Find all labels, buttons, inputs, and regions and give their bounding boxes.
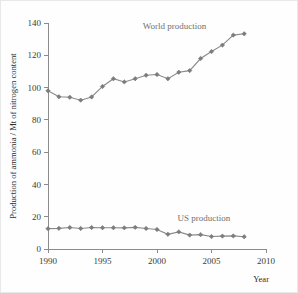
data-point	[133, 225, 137, 229]
y-tick-label-20: 20	[32, 212, 42, 222]
data-point	[122, 226, 126, 230]
data-point	[177, 230, 181, 234]
chart-figure: 02040608010012014019901995200020052010Pr…	[0, 0, 298, 293]
series-line	[48, 34, 244, 100]
data-point	[122, 80, 126, 84]
data-point	[231, 234, 235, 238]
y-tick-label-140: 140	[28, 18, 42, 28]
data-point	[188, 233, 192, 237]
y-tick-label-0: 0	[37, 244, 42, 254]
data-point	[220, 234, 224, 238]
data-point	[57, 95, 61, 99]
data-point	[89, 225, 93, 229]
data-point	[111, 225, 115, 229]
series-label-us-production: US production	[177, 213, 230, 223]
data-point	[79, 226, 83, 230]
y-tick-label-80: 80	[32, 115, 42, 125]
data-point	[100, 225, 104, 229]
data-point	[209, 234, 213, 238]
series-world-production: World production	[46, 21, 247, 102]
data-point	[79, 98, 83, 102]
x-tick-label-2000: 2000	[148, 256, 167, 266]
data-point	[198, 232, 202, 236]
data-point	[68, 225, 72, 229]
line-chart: 02040608010012014019901995200020052010Pr…	[1, 1, 298, 293]
data-point	[46, 89, 50, 93]
x-tick-label-1995: 1995	[94, 256, 113, 266]
y-tick-label-100: 100	[28, 83, 42, 93]
data-point	[133, 76, 137, 80]
y-tick-label-120: 120	[28, 50, 42, 60]
y-tick-label-60: 60	[32, 147, 42, 157]
data-point	[57, 226, 61, 230]
data-point	[144, 73, 148, 77]
data-point	[242, 32, 246, 36]
data-point	[155, 227, 159, 231]
data-point	[68, 95, 72, 99]
data-point	[155, 72, 159, 76]
x-tick-label-2005: 2005	[203, 256, 222, 266]
data-point	[144, 226, 148, 230]
x-axis-title: Year	[253, 274, 269, 284]
series-label-world-production: World production	[143, 21, 207, 31]
data-point	[166, 232, 170, 236]
data-point	[242, 235, 246, 239]
y-axis-title: Production of ammonia / Mt of nitrogen c…	[8, 53, 18, 219]
data-point	[46, 226, 50, 230]
y-tick-label-40: 40	[32, 180, 42, 190]
x-tick-label-1990: 1990	[39, 256, 58, 266]
x-tick-label-2010: 2010	[257, 256, 276, 266]
series-us-production: US production	[46, 213, 247, 239]
